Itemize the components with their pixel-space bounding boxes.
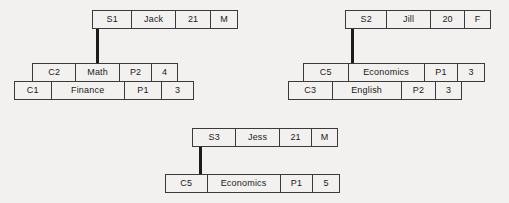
course-title-cell: Math bbox=[76, 64, 119, 81]
course-credits-cell: 3 bbox=[162, 82, 193, 99]
course-credits-cell: 5 bbox=[313, 175, 339, 192]
student-record-s2[interactable]: S2 Jill 20 F bbox=[345, 10, 491, 29]
student-record-s3[interactable]: S3 Jess 21 M bbox=[192, 128, 338, 147]
student-age-cell: 21 bbox=[280, 129, 313, 146]
student-name-cell: Jess bbox=[236, 129, 279, 146]
course-period-cell: P1 bbox=[125, 82, 163, 99]
course-credits-cell: 3 bbox=[436, 82, 461, 99]
student-gender-cell: M bbox=[211, 11, 237, 28]
course-period-cell: P2 bbox=[402, 82, 437, 99]
student-record-s1[interactable]: S1 Jack 21 M bbox=[92, 10, 238, 29]
course-credits-cell: 4 bbox=[152, 64, 177, 81]
diagram-canvas: S1 Jack 21 M C2 Math P2 4 C1 Finance P1 … bbox=[0, 0, 509, 203]
course-record-s2-c5[interactable]: C5 Economics P1 3 bbox=[303, 63, 485, 82]
course-code-cell: C2 bbox=[33, 64, 76, 81]
course-code-cell: C3 bbox=[289, 82, 333, 99]
student-gender-cell: F bbox=[465, 11, 490, 28]
course-record-s1-c2[interactable]: C2 Math P2 4 bbox=[32, 63, 178, 82]
course-period-cell: P1 bbox=[425, 64, 459, 81]
course-record-s3-c5[interactable]: C5 Economics P1 5 bbox=[165, 174, 340, 193]
course-credits-cell: 3 bbox=[458, 64, 484, 81]
course-title-cell: Finance bbox=[52, 82, 125, 99]
course-title-cell: English bbox=[333, 82, 402, 99]
student-id-cell: S2 bbox=[346, 11, 387, 28]
student-name-cell: Jack bbox=[132, 11, 175, 28]
course-record-s2-c3[interactable]: C3 English P2 3 bbox=[288, 81, 462, 100]
course-code-cell: C5 bbox=[166, 175, 208, 192]
connector-s3 bbox=[199, 144, 202, 176]
course-period-cell: P2 bbox=[120, 64, 153, 81]
student-id-cell: S3 bbox=[193, 129, 236, 146]
connector-s2 bbox=[351, 26, 354, 66]
course-title-cell: Economics bbox=[208, 175, 281, 192]
student-gender-cell: M bbox=[312, 129, 337, 146]
student-name-cell: Jill bbox=[387, 11, 430, 28]
connector-s1 bbox=[96, 26, 99, 66]
student-age-cell: 20 bbox=[431, 11, 466, 28]
course-record-s1-c1[interactable]: C1 Finance P1 3 bbox=[14, 81, 194, 100]
student-id-cell: S1 bbox=[93, 11, 132, 28]
course-code-cell: C1 bbox=[15, 82, 52, 99]
course-period-cell: P1 bbox=[281, 175, 314, 192]
student-age-cell: 21 bbox=[176, 11, 212, 28]
course-code-cell: C5 bbox=[304, 64, 349, 81]
course-title-cell: Economics bbox=[349, 64, 425, 81]
